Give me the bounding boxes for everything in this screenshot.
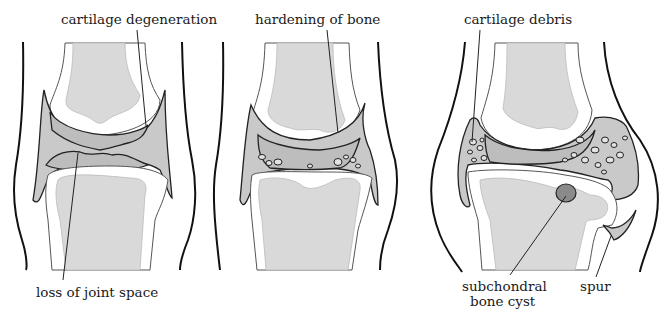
tibia-marrow — [259, 178, 361, 270]
skin-left-outline — [214, 42, 223, 270]
label-cartilage-debris: cartilage debris — [464, 11, 572, 27]
subchondral-cyst — [556, 184, 576, 202]
label-spur: spur — [580, 278, 611, 294]
label-loss-of-joint-space: loss of joint space — [36, 284, 158, 300]
label-bone-cyst: bone cyst — [470, 293, 536, 309]
skin-right-outline — [180, 42, 195, 270]
skin-right-outline — [378, 42, 397, 270]
skin-left-outline — [14, 42, 27, 270]
panel-1-normal-joint: cartilage degeneration loss of joint spa… — [14, 11, 217, 300]
osteoarthritis-diagram: cartilage degeneration loss of joint spa… — [0, 0, 672, 313]
panel-3-advanced-osteoarthritis: cartilage debris subchondral bone cyst s… — [431, 11, 657, 309]
panel-2-bone-hardening: hardening of bone — [214, 11, 397, 270]
label-hardening-of-bone: hardening of bone — [255, 11, 380, 27]
label-cartilage-degeneration: cartilage degeneration — [61, 11, 217, 27]
leader-spur — [596, 236, 611, 277]
label-subchondral: subchondral — [462, 278, 547, 294]
